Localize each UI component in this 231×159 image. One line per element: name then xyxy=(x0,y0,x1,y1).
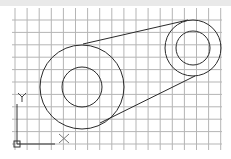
large-pulley-inner-circle[interactable] xyxy=(62,67,102,107)
small-pulley-inner-circle[interactable] xyxy=(176,31,210,65)
grid xyxy=(12,8,222,150)
ucs-icon: X Y xyxy=(0,0,69,147)
drawing-canvas[interactable]: X Y xyxy=(0,0,231,159)
ucs-x-label-icon xyxy=(59,134,69,143)
small-pulley-outer-circle[interactable] xyxy=(165,20,221,76)
belt-lower-tangent-line[interactable] xyxy=(100,76,195,123)
